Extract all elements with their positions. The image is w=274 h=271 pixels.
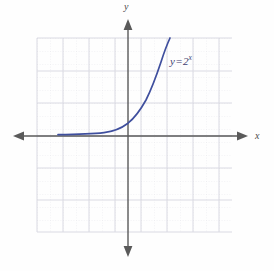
graph-canvas — [0, 0, 274, 271]
curve-equation-label: y=2x — [170, 53, 192, 67]
y-axis-label: y — [124, 1, 128, 12]
equation-exponent: x — [189, 53, 192, 62]
x-axis-label: x — [255, 130, 259, 141]
equation-operator: = — [175, 55, 183, 67]
exponential-function-figure: y x y=2x — [0, 0, 274, 271]
